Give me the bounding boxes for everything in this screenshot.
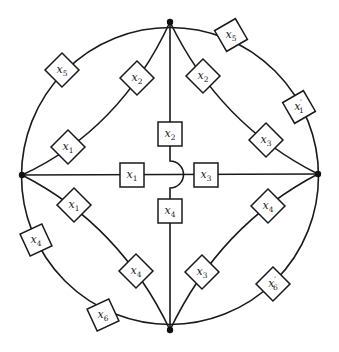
network-diagram: x5x2x1x5x′1x2x3x1x4x4x6x4x3x′6x1x3x2x4	[0, 0, 339, 352]
component-box-x4: x4	[119, 254, 153, 288]
center-horizontal-wire	[22, 174, 318, 175]
center-vertical-wire	[170, 22, 184, 330]
inner-curve-bottom-right	[170, 174, 318, 330]
component-box-x1: x1	[51, 130, 85, 164]
component-box-x2: x2	[186, 59, 220, 93]
component-box-x4: x4	[20, 224, 52, 256]
node-left	[19, 172, 25, 178]
component-box-x6: x6	[87, 299, 119, 331]
component-box-x3: x3	[194, 163, 218, 187]
node-bottom	[167, 327, 173, 333]
component-box-x6-prime: x′6	[256, 267, 290, 301]
node-right	[315, 171, 321, 177]
component-box-x1: x1	[120, 163, 144, 187]
component-box-x4: x4	[158, 199, 182, 223]
component-box-x2: x2	[120, 61, 154, 95]
component-box-x5: x5	[45, 53, 79, 87]
node-top	[167, 19, 173, 25]
component-box-x1-prime: x′1	[283, 91, 316, 124]
component-box-x4: x4	[251, 189, 285, 223]
component-box-x3: x3	[249, 123, 283, 157]
component-box-x2: x2	[158, 122, 182, 146]
